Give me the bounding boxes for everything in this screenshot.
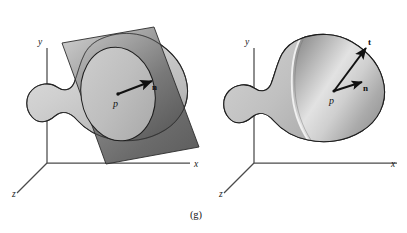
right-normal-label: n xyxy=(363,83,368,93)
right-tangent-label: t xyxy=(368,37,371,47)
left-point-label: p xyxy=(112,98,118,109)
left-z-axis-label: z xyxy=(11,189,16,199)
right-point-label: p xyxy=(328,95,334,106)
right-z-axis-label: z xyxy=(218,189,223,199)
figure-caption: (g) xyxy=(190,209,203,221)
left-y-axis-label: y xyxy=(37,37,43,47)
right-point-p-dot xyxy=(332,89,335,92)
left-x-axis-label: x xyxy=(193,159,199,169)
right-x-axis-label: x xyxy=(390,159,396,169)
figure-svg: y x z p n y x z xyxy=(0,0,407,233)
right-y-axis-label: y xyxy=(244,37,250,47)
left-normal-label: n xyxy=(152,82,157,92)
left-point-p-dot xyxy=(116,92,119,95)
figure-container: y x z p n y x z xyxy=(0,0,407,233)
